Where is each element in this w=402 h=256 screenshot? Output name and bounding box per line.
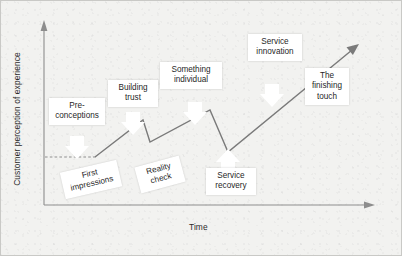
callout-service-recovery: Service recovery — [206, 168, 256, 195]
journey-chart-svg — [0, 0, 402, 256]
callout-line: Service — [252, 37, 298, 47]
figure-border — [1, 1, 402, 256]
callout-line: finishing — [309, 81, 345, 91]
callout-line: conceptions — [53, 111, 101, 121]
callout-line: innovation — [252, 47, 298, 57]
figure-canvas: Customer perception of experience Time P… — [0, 0, 402, 256]
callout-line: individual — [164, 75, 218, 85]
callout-finishing-touch: The finishing touch — [305, 68, 349, 105]
callout-pre-conceptions: Pre- conceptions — [49, 98, 105, 125]
x-axis — [44, 202, 375, 209]
callout-building-trust: Building trust — [108, 80, 158, 107]
callout-something-individual: Something individual — [160, 62, 222, 89]
x-axis-title: Time — [189, 222, 208, 232]
y-axis — [41, 20, 48, 205]
callout-line: touch — [309, 92, 345, 102]
callout-line: Building — [112, 83, 154, 93]
callout-pointers — [65, 81, 336, 172]
pointer-down-service-innovation — [260, 84, 284, 107]
pointer-down-something-individual — [183, 102, 207, 125]
y-axis-title: Customer perception of experience — [12, 39, 22, 199]
callout-line: The — [309, 71, 345, 81]
callout-line: recovery — [210, 181, 252, 191]
callout-line: Something — [164, 65, 218, 75]
callout-line: Service — [210, 171, 252, 181]
pointer-down-building-trust — [121, 112, 145, 135]
callout-line: trust — [112, 93, 154, 103]
callout-line: Pre- — [53, 101, 101, 111]
pointer-down-pre-conceptions — [65, 136, 89, 159]
callout-service-innovation: Service innovation — [248, 34, 302, 61]
